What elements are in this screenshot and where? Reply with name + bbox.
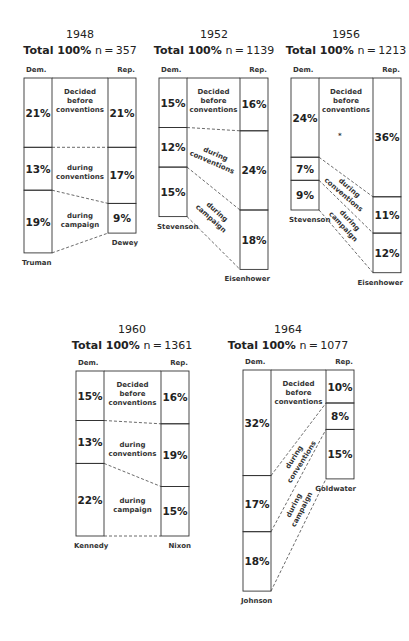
rep-value-before: 16%: [162, 391, 188, 403]
phase-label-campaign: duringcampaign: [282, 487, 315, 529]
phase-label-before: conventions: [322, 106, 370, 114]
panel-year: 1948: [66, 28, 94, 41]
chart: 1948Total 100% n = 357Dem.Rep.21%13%19%2…: [0, 0, 409, 641]
connector-line: [104, 463, 161, 486]
dem-header: Dem.: [293, 66, 314, 74]
phase-label-before: conventions: [109, 399, 157, 407]
rep-value-conventions: 24%: [241, 164, 267, 176]
dem-value-campaign: 22%: [77, 494, 103, 506]
dem-value-campaign: 19%: [25, 216, 51, 228]
rep-value-campaign: 18%: [241, 234, 267, 246]
phase-label-campaign: duringcampaign: [194, 196, 234, 234]
dem-candidate: Kennedy: [74, 542, 109, 550]
dem-candidate: Johnson: [240, 597, 272, 605]
phase-label-campaign: campaign: [113, 506, 151, 514]
dem-value-conventions: 17%: [244, 498, 270, 510]
phase-label-before: Decided: [117, 381, 149, 389]
panel-1964: 1964Total 100% n = 1077Dem.Rep.32%17%18%…: [228, 323, 357, 605]
phase-label-before: conventions: [275, 398, 323, 406]
dem-value-conventions: 13%: [77, 436, 103, 448]
phase-label-conventions: conventions: [56, 173, 104, 181]
dem-value-before: 32%: [244, 417, 270, 429]
rep-candidate: Goldwater: [315, 485, 356, 493]
panel-total: Total 100% n = 1361: [72, 339, 192, 352]
dem-value-before: 15%: [160, 97, 186, 109]
dem-candidate: Stevenson: [157, 223, 198, 231]
rep-header: Rep.: [170, 359, 188, 367]
dem-value-campaign: 18%: [244, 555, 270, 567]
rep-value-campaign: 12%: [374, 247, 400, 259]
panel-total: Total 100% n = 1077: [228, 339, 348, 352]
dem-value-campaign: 15%: [160, 186, 186, 198]
phase-label-conventions: during: [120, 441, 146, 449]
dem-value-conventions: 7%: [296, 163, 314, 175]
phase-label-before: before: [286, 389, 312, 397]
dem-value-before: 24%: [292, 112, 318, 124]
dem-header: Dem.: [161, 66, 182, 74]
phase-label-before: before: [67, 97, 93, 105]
panel-year: 1964: [274, 323, 302, 336]
connector-line: [187, 128, 240, 131]
rep-value-campaign: 9%: [113, 212, 131, 224]
connector-line: [104, 421, 161, 424]
phase-label-campaign: during: [120, 497, 146, 505]
panel-1960: 1960Total 100% n = 1361Dem.Rep.15%13%22%…: [72, 323, 192, 550]
connector-line: [52, 233, 108, 253]
phase-label-before: conventions: [56, 106, 104, 114]
rep-candidate: Eisenhower: [357, 279, 403, 287]
rep-header: Rep.: [117, 66, 135, 74]
panel-1956: 1956Total 100% n = 1213Dem.Rep.24%7%9%36…: [286, 28, 406, 287]
dem-value-campaign: 9%: [296, 189, 314, 201]
rep-value-conventions: 17%: [109, 169, 135, 181]
rep-value-before: 36%: [374, 131, 400, 143]
rep-value-campaign: 15%: [327, 448, 353, 460]
phase-label-before: Decided: [283, 380, 315, 388]
connector-line: [52, 190, 108, 203]
phase-label-campaign: campaign: [61, 221, 99, 229]
phase-label-before: Decided: [64, 88, 96, 96]
dem-value-conventions: 13%: [25, 163, 51, 175]
rep-value-before: 10%: [327, 381, 353, 393]
panel-total: Total 100% n = 357: [23, 44, 136, 57]
rep-value-conventions: 8%: [331, 410, 349, 422]
phase-label-conventions: duringconventions: [278, 435, 318, 485]
phase-label-campaign: during: [67, 212, 93, 220]
rep-header: Rep.: [249, 66, 267, 74]
rep-value-before: 16%: [241, 98, 267, 110]
phase-label-conventions: during: [67, 164, 93, 172]
rep-candidate: Dewey: [112, 239, 139, 247]
dem-value-before: 15%: [77, 390, 103, 402]
rep-candidate: Eisenhower: [224, 275, 270, 283]
rep-value-campaign: 15%: [162, 505, 188, 517]
phase-label-before: before: [201, 97, 227, 105]
dem-header: Dem.: [78, 359, 99, 367]
panel-total: Total 100% n = 1213: [286, 44, 406, 57]
phase-label-conventions: duringconventions: [323, 169, 370, 213]
panel-1948: 1948Total 100% n = 357Dem.Rep.21%13%19%2…: [22, 28, 138, 267]
dem-header: Dem.: [245, 358, 266, 366]
phase-label-before: Decided: [198, 88, 230, 96]
rep-value-conventions: 19%: [162, 449, 188, 461]
annotation-mark: *: [338, 132, 342, 140]
panel-year: 1952: [200, 28, 228, 41]
phase-label-conventions: duringconventions: [188, 141, 239, 176]
rep-candidate: Nixon: [168, 542, 191, 550]
panel-total: Total 100% n = 1139: [154, 44, 274, 57]
panel-year: 1956: [332, 28, 360, 41]
dem-value-conventions: 12%: [160, 141, 186, 153]
rep-value-conventions: 11%: [374, 209, 400, 221]
dem-candidate: Truman: [22, 259, 51, 267]
phase-label-before: before: [333, 97, 359, 105]
phase-label-conventions: conventions: [109, 450, 157, 458]
phase-label-before: Decided: [330, 88, 362, 96]
panel-1952: 1952Total 100% n = 1139Dem.Rep.15%12%15%…: [154, 28, 274, 283]
phase-label-before: conventions: [190, 106, 238, 114]
panel-year: 1960: [118, 323, 146, 336]
phase-label-before: before: [120, 390, 146, 398]
dem-candidate: Stevenson: [289, 216, 330, 224]
rep-header: Rep.: [335, 358, 353, 366]
dem-value-before: 21%: [25, 107, 51, 119]
rep-header: Rep.: [382, 66, 400, 74]
rep-value-before: 21%: [109, 107, 135, 119]
dem-header: Dem.: [26, 66, 47, 74]
